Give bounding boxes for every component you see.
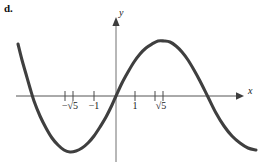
tick-label-sqrt5: √5 [146,100,176,111]
x-axis-arrow-icon [236,92,244,100]
tick-label-neg-1: −1 [82,100,106,111]
x-axis-label: x [248,86,252,96]
graph-figure [0,0,278,162]
y-axis-arrow-icon [112,17,119,26]
tick-label-neg-sqrt5: −√5 [55,100,85,111]
y-axis-label: y [119,8,123,18]
tick-label-1: 1 [124,100,146,111]
